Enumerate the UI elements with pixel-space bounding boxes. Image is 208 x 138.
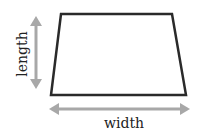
- width-label: width: [104, 115, 144, 131]
- trapezoid-diagram: length width: [0, 0, 208, 138]
- length-arrow-head-up: [30, 16, 42, 26]
- length-arrow: [30, 16, 42, 89]
- length-label: length: [14, 31, 30, 76]
- trapezoid-shape: [51, 14, 186, 95]
- width-arrow-head-right: [180, 103, 190, 115]
- width-arrow-head-left: [49, 103, 59, 115]
- length-arrow-head-down: [30, 79, 42, 89]
- width-arrow: [49, 103, 190, 115]
